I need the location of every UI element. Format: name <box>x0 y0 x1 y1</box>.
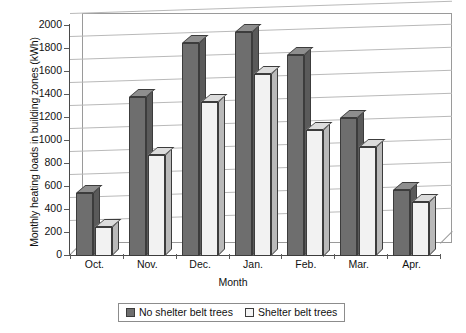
y-axis-tick-labels: 0200400600800100012001400160018002000 <box>48 25 70 256</box>
x-axis-tick <box>440 254 441 259</box>
x-axis-tick <box>334 254 335 259</box>
bar-oct-series1 <box>76 193 93 256</box>
bar-nov-series2 <box>148 155 165 256</box>
y-axis-tick-label: 600 <box>44 179 62 191</box>
y-axis-tick-label: 1600 <box>39 64 62 76</box>
x-axis-tick <box>229 254 230 259</box>
y-axis-tick-label: 1400 <box>39 87 62 99</box>
gridline <box>70 1 452 14</box>
bar-front-face <box>287 55 304 256</box>
bar-mar-series2 <box>359 147 376 256</box>
bar-feb-series2 <box>306 130 323 257</box>
legend-label: Shelter belt trees <box>258 306 337 318</box>
bar-jan-series2 <box>254 74 271 256</box>
x-axis-tick-label: Oct. <box>85 258 104 270</box>
bar-front-face <box>412 202 429 256</box>
x-axis-tick <box>176 254 177 259</box>
bar-front-face <box>95 227 112 256</box>
bar-front-face <box>306 130 323 257</box>
bar-front-face <box>359 147 376 256</box>
bar-nov-series1 <box>129 97 146 256</box>
chart-legend: No shelter belt treesShelter belt trees <box>118 303 345 322</box>
bar-front-face <box>129 97 146 256</box>
legend-label: No shelter belt trees <box>139 306 233 318</box>
bar-side-face <box>323 123 330 257</box>
legend-swatch-icon <box>245 308 254 317</box>
bar-side-face <box>429 195 436 256</box>
bar-front-face <box>235 32 252 256</box>
bar-front-face <box>76 193 93 256</box>
x-axis-tick-label: Nov. <box>137 258 158 270</box>
x-axis-tick <box>123 254 124 259</box>
x-axis-tick <box>387 254 388 259</box>
y-axis-tick-label: 200 <box>44 225 62 237</box>
x-axis-tick-label: Dec. <box>189 258 211 270</box>
y-axis-tick-label: 800 <box>44 156 62 168</box>
y-axis-tick-label: 1800 <box>39 41 62 53</box>
bar-front-face <box>148 155 165 256</box>
bar-front-face <box>393 190 410 256</box>
bar-apr-series1 <box>393 190 410 256</box>
bar-dec-series1 <box>182 43 199 256</box>
legend-item-1[interactable]: No shelter belt trees <box>126 306 233 318</box>
bar-front-face <box>201 102 218 256</box>
bar-side-face <box>271 67 278 256</box>
bar-side-face <box>376 140 383 256</box>
bar-dec-series2 <box>201 102 218 256</box>
bar-chart-figure: Monthly heating loads in building zones … <box>0 0 466 333</box>
bar-front-face <box>340 118 357 256</box>
x-axis-tick-label: Feb. <box>295 258 316 270</box>
legend-swatch-icon <box>126 308 135 317</box>
bar-apr-series2 <box>412 202 429 256</box>
bar-feb-series1 <box>287 55 304 256</box>
x-axis-tick-labels: Oct.Nov.Dec.Jan.Feb.Mar.Apr. <box>70 258 450 276</box>
bar-side-face <box>165 148 172 256</box>
y-axis-tick-label: 400 <box>44 202 62 214</box>
legend-item-2[interactable]: Shelter belt trees <box>245 306 337 318</box>
x-axis-tick-label: Jan. <box>243 258 263 270</box>
x-axis-tick-label: Apr. <box>402 258 421 270</box>
bar-front-face <box>254 74 271 256</box>
bar-side-face <box>218 95 225 256</box>
bar-mar-series1 <box>340 118 357 256</box>
bar-front-face <box>182 43 199 256</box>
y-axis-tick-label: 1200 <box>39 110 62 122</box>
y-axis-tick-label: 2000 <box>39 18 62 30</box>
x-axis-tick-label: Mar. <box>348 258 368 270</box>
x-axis-title: Month <box>0 276 466 288</box>
y-axis-tick-label: 1000 <box>39 133 62 145</box>
bar-series-container <box>70 25 440 256</box>
y-axis-tick-label: 0 <box>56 248 62 260</box>
x-axis-tick <box>70 254 71 259</box>
bar-jan-series1 <box>235 32 252 256</box>
bar-oct-series2 <box>95 227 112 256</box>
x-axis-tick <box>281 254 282 259</box>
